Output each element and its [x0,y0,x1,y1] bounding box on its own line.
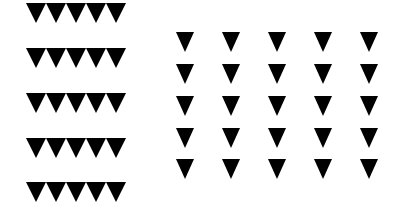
triangle-icon [268,128,286,148]
triangle-icon [222,32,240,52]
triangle-icon [360,32,378,52]
triangle-icon [268,159,286,179]
triangle-icon [314,128,332,148]
triangle-icon [268,96,286,116]
triangle-icon [314,96,332,116]
triangle-icon [176,159,194,179]
triangle-icon [222,159,240,179]
triangle-icon [176,32,194,52]
triangle-icon [360,159,378,179]
triangle-icon [268,64,286,84]
triangle-icon [360,64,378,84]
triangle-icon [314,32,332,52]
triangle-icon [222,64,240,84]
triangle-icon [222,96,240,116]
right-triangle-grid [0,0,401,218]
triangle-icon [268,32,286,52]
triangle-icon [176,128,194,148]
triangle-icon [314,159,332,179]
triangle-icon [314,64,332,84]
triangle-icon [176,96,194,116]
triangle-icon [176,64,194,84]
triangle-icon [360,96,378,116]
triangle-icon [222,128,240,148]
triangle-icon [360,128,378,148]
